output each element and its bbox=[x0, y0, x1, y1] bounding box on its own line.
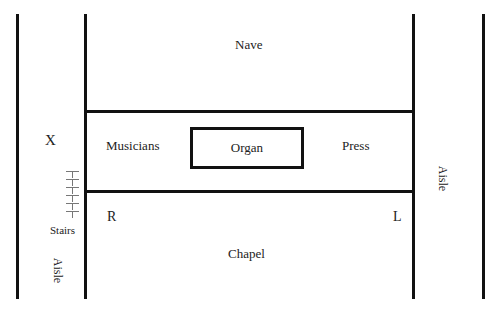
chapel-label: Chapel bbox=[228, 246, 265, 262]
nave-divider bbox=[84, 110, 415, 113]
left-outer-wall bbox=[16, 14, 19, 299]
left-inner-wall bbox=[84, 14, 87, 299]
organ-box: Organ bbox=[190, 127, 304, 169]
organ-label: Organ bbox=[231, 140, 263, 156]
aisle-right-label: Aisle bbox=[435, 166, 450, 191]
musicians-label: Musicians bbox=[106, 138, 159, 154]
r-mark-label: R bbox=[107, 209, 116, 225]
right-inner-wall bbox=[412, 14, 415, 299]
stairs-icon bbox=[66, 171, 80, 219]
right-outer-wall bbox=[482, 14, 485, 299]
nave-label: Nave bbox=[235, 37, 262, 53]
press-label: Press bbox=[342, 138, 369, 154]
x-mark-label: X bbox=[45, 132, 56, 149]
stairs-label: Stairs bbox=[50, 224, 75, 236]
aisle-left-label: Aisle bbox=[50, 258, 65, 283]
chapel-divider bbox=[84, 190, 415, 193]
l-mark-label: L bbox=[393, 209, 402, 225]
